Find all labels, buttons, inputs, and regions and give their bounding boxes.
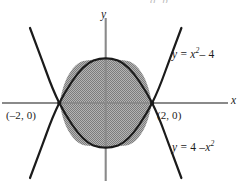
curve-upper-constant: 4 — [209, 48, 215, 60]
curve-label-upward-parabola: y = x2– 4 — [172, 49, 214, 61]
curve-upper-operator: – — [199, 48, 205, 60]
curve-upper-lead: y — [172, 48, 177, 60]
curve-lower-constant: 4 — [190, 141, 196, 153]
curve-upper-equals: = — [180, 48, 187, 60]
intersection-point-left — [57, 101, 61, 105]
curve-lower-exponent: 2 — [210, 139, 214, 148]
y-axis-label: y — [101, 9, 106, 21]
point-label-right-intersection: (2, 0) — [157, 110, 181, 121]
point-label-left-intersection: (–2, 0) — [6, 110, 36, 121]
intersection-point-right — [150, 101, 154, 105]
x-axis-label: x — [231, 95, 236, 107]
curve-lower-lead: y — [172, 141, 177, 153]
curve-lower-equals: = — [180, 141, 187, 153]
figure-canvas — [0, 0, 245, 183]
curve-label-downward-parabola: y = 4 –x2 — [172, 142, 214, 154]
parabola-region-figure: g p — [0, 0, 245, 183]
